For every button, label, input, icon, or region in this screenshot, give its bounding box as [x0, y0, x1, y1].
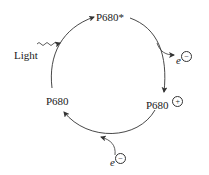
electron-out: e−: [176, 51, 192, 66]
minus-charge-icon: −: [181, 51, 192, 62]
node-p680-excited: P680*: [96, 12, 124, 23]
node-p680-oxidized-label: P680: [146, 99, 169, 111]
plus-charge-icon: +: [172, 96, 183, 107]
light-label: Light: [14, 50, 38, 61]
arc-p680plus-to-p680: [64, 110, 155, 134]
light-wavy-arrow: [37, 43, 60, 46]
node-p680-oxidized: P680 +: [146, 96, 183, 111]
node-p680-excited-label: P680*: [96, 11, 124, 23]
arc-p680star-to-p680plus: [130, 18, 165, 92]
node-p680-ground: P680: [46, 96, 69, 107]
p680-cycle-diagram: P680* Light P680 + P680 e− e−: [0, 0, 209, 175]
arc-p680-to-p680star: [51, 17, 94, 88]
electron-in: e−: [110, 153, 126, 168]
minus-charge-icon: −: [115, 153, 126, 164]
cycle-arrows: [0, 0, 209, 175]
